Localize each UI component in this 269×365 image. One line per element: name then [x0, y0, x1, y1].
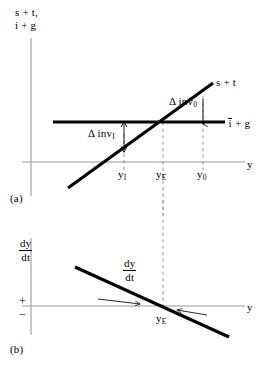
economics-figure: s + t, i + g y s + t i + g Δ inv0 Δ invI…: [0, 0, 269, 365]
annotation-delta-inv1-subscript: I: [112, 132, 115, 141]
panel-b-y-axis-fraction: dy dt: [19, 238, 32, 263]
panel-b-tick-label-y-E-subscript: E: [162, 317, 167, 326]
tick-label-y-E-base: y: [156, 168, 162, 180]
figure-canvas: [0, 0, 269, 365]
annotation-delta-inv0-text: Δ inv: [169, 95, 193, 107]
panel-a-x-axis-label: y: [247, 158, 253, 171]
panel-a-y-axis-label-line2: i + g: [15, 19, 38, 32]
annotation-delta-inv0: Δ inv0: [169, 95, 197, 108]
panel-b-axes: [22, 238, 245, 335]
tick-label-y-0-base: y: [197, 168, 203, 180]
panel-b-curves: [75, 267, 229, 337]
arrow-toward-equilibrium-right: [98, 299, 140, 304]
curve-label-dy-dt-denominator: dt: [123, 272, 136, 284]
annotation-delta-inv1: Δ invI: [88, 127, 115, 140]
panel-b-sign-negative: −: [19, 307, 26, 321]
panel-a-y-axis-label: s + t, i + g: [15, 6, 38, 32]
tick-label-y-E: yE: [156, 168, 167, 181]
curve-label-dy-dt-numerator: dy: [123, 258, 136, 270]
tick-label-y-0: y0: [197, 168, 207, 181]
curve-label-s-plus-t: s + t: [216, 76, 236, 89]
panel-a-tag: (a): [10, 192, 23, 205]
curve-label-dy-dt-fraction: dy dt: [123, 258, 136, 283]
panel-b-x-axis-label: y: [247, 301, 253, 314]
panel-a-y-axis-label-line1: s + t,: [15, 6, 38, 19]
tick-label-y-I-base: y: [118, 168, 124, 180]
tick-label-y-E-subscript: E: [162, 173, 167, 182]
tick-label-y-I-subscript: I: [124, 173, 127, 182]
panel-b-y-axis-numerator: dy: [19, 238, 32, 250]
panel-b-y-axis-label: dy dt: [19, 238, 32, 264]
tick-label-y-I: yI: [118, 168, 126, 181]
annotation-delta-inv1-text: Δ inv: [88, 127, 112, 139]
panel-a-dashed-guides: [124, 96, 203, 215]
tick-label-y-0-subscript: 0: [203, 173, 207, 182]
curve-label-i-bar-plus-g: i + g: [228, 117, 250, 130]
curve-dy-dt: [75, 267, 229, 337]
panel-b-tick-label-y-E-base: y: [156, 312, 162, 324]
plus-g-text: + g: [232, 117, 250, 129]
i-bar-glyph: i: [228, 117, 232, 130]
panel-a-axes: [22, 38, 245, 196]
curve-label-dy-dt: dy dt: [123, 258, 136, 284]
panel-b-y-axis-denominator: dt: [19, 252, 32, 264]
panel-b-tag: (b): [10, 343, 23, 356]
annotation-delta-inv0-subscript: 0: [193, 100, 197, 109]
panel-b-tick-label-y-E: yE: [156, 312, 167, 325]
